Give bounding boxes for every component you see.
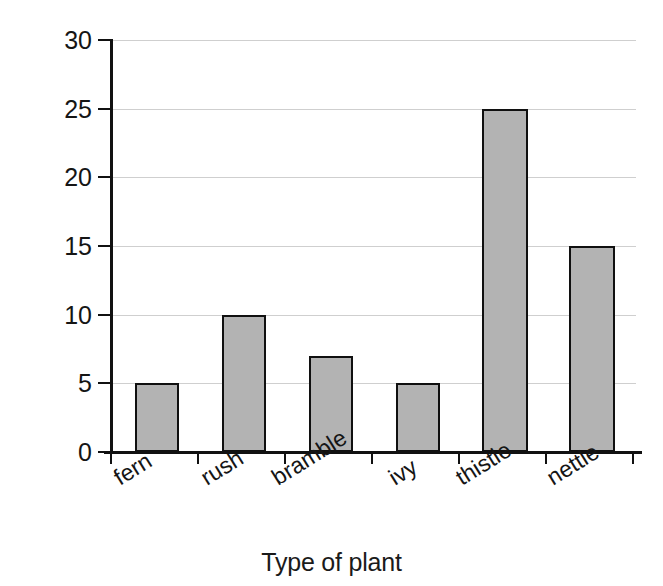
bar-thistle [482,109,528,452]
bar-rush [222,315,266,452]
x-tick-mark-5 [545,452,547,464]
x-tick-mark-1 [197,452,199,464]
gridline-30 [110,40,636,41]
bar-ivy [396,383,440,452]
y-tick-mark-10 [98,314,110,316]
y-tick-mark-30 [98,39,110,41]
y-tick-label-30: 30 [36,28,92,53]
y-tick-label-15: 15 [36,234,92,259]
x-axis-title: Type of plant [0,548,663,577]
x-category-label-fern: fern [110,449,156,490]
y-tick-label-20: 20 [36,165,92,190]
x-tick-mark-6 [632,452,634,464]
y-tick-mark-5 [98,382,110,384]
x-category-label-ivy: ivy [385,455,421,489]
bar-nettle [569,246,615,452]
x-tick-mark-3 [371,452,373,464]
y-tick-label-0: 0 [36,440,92,465]
gridline-5 [110,383,636,384]
x-tick-mark-0 [110,452,112,464]
gridline-10 [110,315,636,316]
y-axis-line [110,39,113,453]
y-tick-label-5: 5 [36,371,92,396]
y-tick-mark-15 [98,245,110,247]
gridline-15 [110,246,636,247]
bar-chart-figure: Number 0 5 10 15 20 25 30 [0,0,663,586]
y-tick-mark-25 [98,108,110,110]
x-axis-line [104,451,642,454]
y-tick-label-10: 10 [36,302,92,327]
gridline-25 [110,109,636,110]
gridline-20 [110,177,636,178]
y-tick-label-25: 25 [36,96,92,121]
bar-fern [135,383,179,452]
y-tick-mark-20 [98,176,110,178]
plot-area [110,40,636,452]
y-axis-tick-labels: 0 5 10 15 20 25 30 [30,0,92,586]
